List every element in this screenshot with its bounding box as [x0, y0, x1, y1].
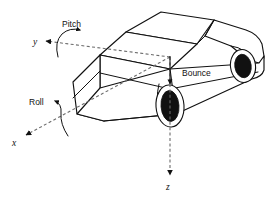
x-axis-label: x: [11, 138, 17, 148]
bounce-label: Bounce: [182, 68, 211, 78]
pitch-annotation: Pitch: [57, 19, 82, 57]
roll-rotation-arc: [55, 101, 68, 136]
roll-label: Roll: [29, 97, 44, 107]
pitch-label: Pitch: [62, 19, 81, 29]
vehicle-axes-illustration: y x z Pitch Roll Bounce: [0, 0, 278, 197]
y-axis-label: y: [32, 37, 38, 47]
vehicle-axes-diagram: y x z Pitch Roll Bounce: [0, 0, 278, 197]
z-axis-label: z: [165, 182, 170, 192]
